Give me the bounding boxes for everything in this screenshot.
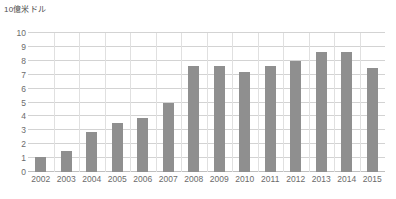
bar-2014	[341, 52, 352, 172]
x-axis-tick: 2010	[232, 175, 258, 184]
bar-2002	[35, 157, 46, 172]
x-axis-tick-labels: 2002200320042005200620072008200920102011…	[28, 175, 385, 184]
bar-2003	[61, 151, 72, 172]
x-axis-tick: 2015	[360, 175, 386, 184]
y-axis-tick: 1	[2, 154, 26, 163]
y-axis-tick: 10	[2, 29, 26, 38]
bar-slot	[79, 33, 105, 172]
plot-area	[28, 33, 385, 172]
y-axis-tick: 4	[2, 112, 26, 121]
bar-slot	[309, 33, 335, 172]
x-axis-tick: 2003	[54, 175, 80, 184]
bar-slot	[156, 33, 182, 172]
bar-2010	[239, 72, 250, 172]
bar-slot	[105, 33, 131, 172]
bar-2008	[188, 66, 199, 172]
y-axis-tick: 5	[2, 99, 26, 108]
x-axis-tick: 2008	[181, 175, 207, 184]
x-axis-tick: 2013	[309, 175, 335, 184]
y-axis-tick: 3	[2, 126, 26, 135]
bar-slot	[258, 33, 284, 172]
bar-slot	[181, 33, 207, 172]
bar-2015	[367, 68, 378, 172]
y-axis-unit-label: 10億米ドル	[4, 3, 46, 14]
y-axis-tick: 7	[2, 71, 26, 80]
bar-slot	[334, 33, 360, 172]
x-axis-tick: 2005	[105, 175, 131, 184]
x-axis-tick: 2012	[283, 175, 309, 184]
bar-series	[28, 33, 385, 172]
x-axis-tick: 2002	[28, 175, 54, 184]
y-axis-tick: 9	[2, 43, 26, 52]
bar-slot	[130, 33, 156, 172]
x-axis-tick: 2014	[334, 175, 360, 184]
bar-slot	[232, 33, 258, 172]
x-axis-tick: 2011	[258, 175, 284, 184]
y-axis-tick: 0	[2, 168, 26, 177]
x-axis-tick: 2004	[79, 175, 105, 184]
bar-slot	[207, 33, 233, 172]
x-axis-tick: 2007	[156, 175, 182, 184]
bar-slot	[360, 33, 386, 172]
bar-2013	[316, 52, 327, 172]
y-axis-tick: 2	[2, 140, 26, 149]
bar-slot	[28, 33, 54, 172]
y-axis-tick: 6	[2, 85, 26, 94]
x-axis-tick: 2009	[207, 175, 233, 184]
bar-slot	[283, 33, 309, 172]
bar-chart: 10億米ドル 109876543210 20022003200420052006…	[0, 0, 396, 199]
y-axis-tick-labels: 109876543210	[0, 33, 26, 172]
bar-2012	[290, 61, 301, 172]
bar-2005	[112, 123, 123, 172]
bar-2006	[137, 118, 148, 172]
bar-2004	[86, 132, 97, 172]
bar-2011	[265, 66, 276, 172]
x-axis-tick: 2006	[130, 175, 156, 184]
bar-2007	[163, 103, 174, 173]
y-axis-tick: 8	[2, 57, 26, 66]
bar-2009	[214, 66, 225, 172]
bar-slot	[54, 33, 80, 172]
